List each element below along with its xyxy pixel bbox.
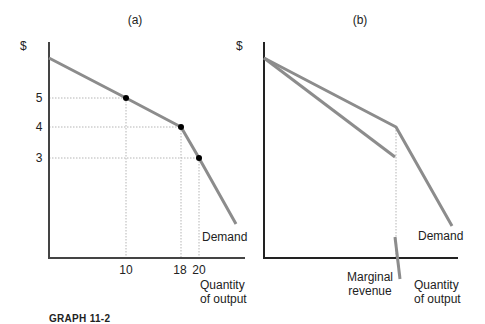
panel-b-mr-label-1: Marginal bbox=[347, 270, 393, 284]
figure-caption: GRAPH 11-2 bbox=[49, 313, 110, 324]
panel-a-x-label-1: Quantity bbox=[200, 278, 245, 292]
panel-a: (a) $ 5 4 3 10 18 20 Demand Quantity of … bbox=[20, 13, 247, 306]
x-tick-18: 18 bbox=[173, 263, 187, 277]
graph-figure: (a) $ 5 4 3 10 18 20 Demand Quantity of … bbox=[0, 0, 485, 324]
panel-b-x-label-1: Quantity bbox=[414, 278, 459, 292]
panel-b-mr-upper bbox=[264, 58, 395, 157]
panel-b-demand-label: Demand bbox=[418, 229, 463, 243]
y-tick-3: 3 bbox=[36, 151, 43, 165]
panel-b-demand-curve bbox=[264, 58, 452, 226]
panel-a-demand-curve bbox=[49, 58, 236, 224]
panel-b-title: (b) bbox=[353, 13, 368, 27]
panel-a-title: (a) bbox=[128, 13, 143, 27]
panel-a-x-label-2: of output bbox=[200, 292, 247, 306]
x-tick-10: 10 bbox=[119, 263, 133, 277]
y-tick-4: 4 bbox=[36, 120, 43, 134]
y-tick-5: 5 bbox=[36, 91, 43, 105]
panel-b-x-label-2: of output bbox=[414, 292, 461, 306]
x-tick-20: 20 bbox=[192, 263, 206, 277]
point-20-3 bbox=[196, 155, 202, 161]
panel-b: (b) $ Demand Marginal revenue Quantity o… bbox=[236, 13, 463, 306]
point-10-5 bbox=[123, 95, 129, 101]
panel-b-mr-label-2: revenue bbox=[348, 284, 392, 298]
panel-a-demand-label: Demand bbox=[202, 230, 247, 244]
guide-lines bbox=[49, 98, 199, 258]
panel-a-y-label: $ bbox=[20, 39, 27, 53]
point-18-4 bbox=[178, 124, 184, 130]
panel-b-y-label: $ bbox=[236, 39, 243, 53]
